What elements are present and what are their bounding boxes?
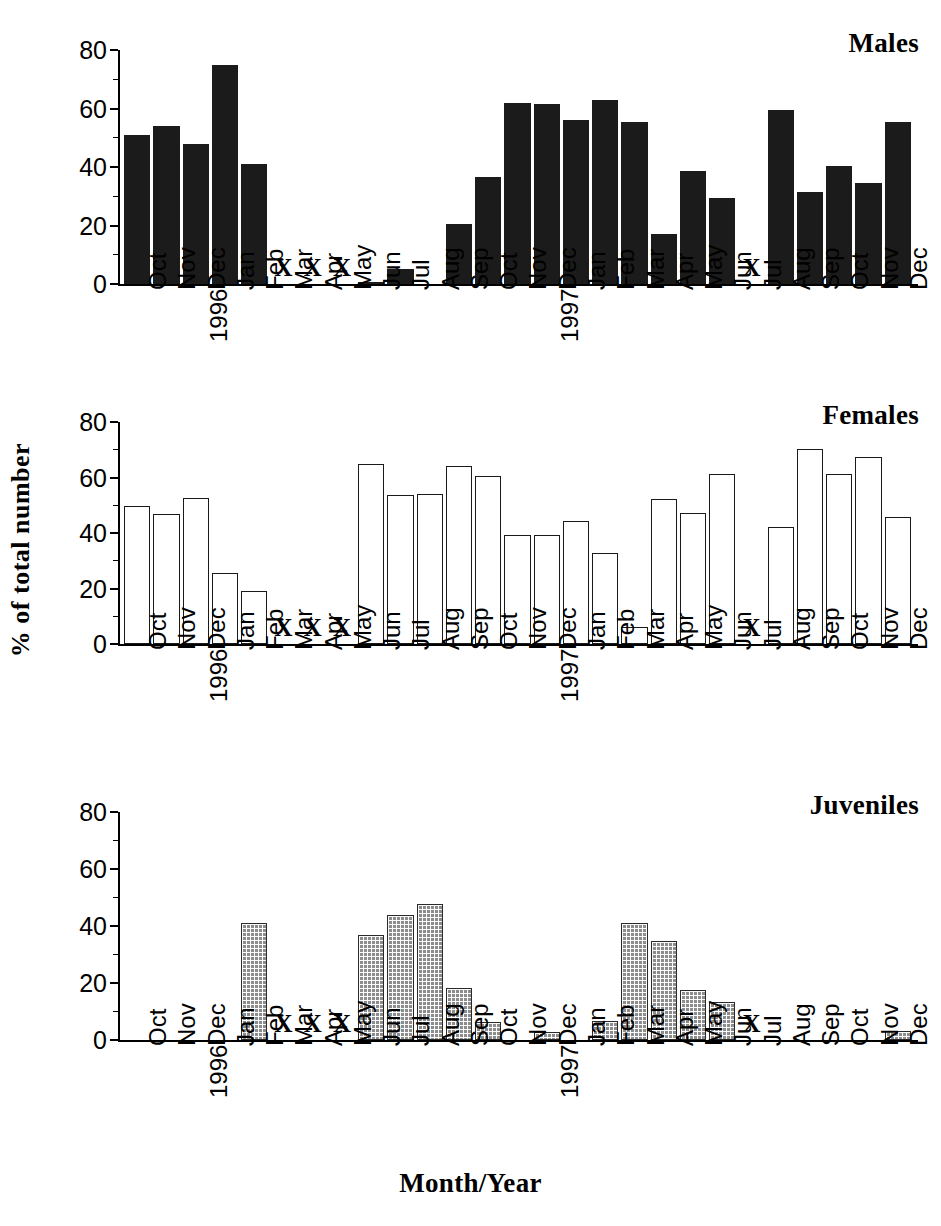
x-axis-ticks: OctNovDecJan1996FebMarAprMayJunJulAugSep… (120, 644, 916, 764)
x-tick: Mar (621, 284, 647, 404)
y-tick (110, 166, 118, 168)
y-tick-label: 80 (79, 410, 107, 435)
x-tick: Oct (124, 284, 150, 404)
x-tick: May (329, 284, 355, 404)
y-tick-minor (113, 505, 118, 506)
x-tick: Feb (241, 1040, 267, 1160)
y-tick-label: 40 (79, 521, 107, 546)
x-tick: Nov (504, 1040, 530, 1160)
x-tick: Jun (358, 644, 384, 764)
x-tick: Feb (592, 1040, 618, 1160)
x-tick: Sep (797, 1040, 823, 1160)
x-axis-ticks: OctNovDecJan1996FebMarAprMayJunJulAugSep… (120, 284, 916, 404)
y-tick (110, 1039, 118, 1041)
bar-slot (124, 812, 150, 1040)
x-tick: May (680, 284, 706, 404)
plot-area-males: 020406080XXXXOctNovDecJan1996FebMarAprMa… (118, 50, 918, 284)
x-tick: May (329, 1040, 355, 1160)
x-tick: Jan1996 (212, 284, 238, 404)
x-tick: Aug (768, 1040, 794, 1160)
x-tick: Sep (446, 1040, 472, 1160)
y-tick-label: 40 (79, 914, 107, 939)
y-tick-minor (113, 79, 118, 80)
y-tick (110, 811, 118, 813)
x-tick: Jun (709, 644, 735, 764)
bar-slot (387, 812, 413, 1040)
x-tick: May (680, 1040, 706, 1160)
x-tick: Nov (504, 644, 530, 764)
y-tick-minor (113, 254, 118, 255)
x-tick: Mar (621, 1040, 647, 1160)
x-tick: Sep (446, 644, 472, 764)
x-tick: Oct (826, 1040, 852, 1160)
x-tick: Jul (738, 644, 764, 764)
y-tick-label: 60 (79, 97, 107, 122)
x-tick: Oct (826, 644, 852, 764)
y-tick (110, 49, 118, 51)
x-axis-year-label: 1996 (207, 289, 231, 342)
y-tick-minor (113, 840, 118, 841)
y-tick (110, 925, 118, 927)
x-tick: Nov (153, 644, 179, 764)
y-tick (110, 982, 118, 984)
y-tick-label: 60 (79, 466, 107, 491)
x-tick: Jan1996 (212, 1040, 238, 1160)
x-tick-label: Dec (907, 1003, 931, 1046)
x-tick: Feb (241, 644, 267, 764)
x-tick: Nov (855, 644, 881, 764)
y-tick-label: 80 (79, 800, 107, 825)
x-tick: Oct (826, 284, 852, 404)
x-tick: Apr (651, 1040, 677, 1160)
x-tick: Apr (300, 1040, 326, 1160)
x-tick: Jan1996 (212, 644, 238, 764)
y-tick-label: 80 (79, 38, 107, 63)
x-tick-label: Dec (907, 247, 931, 290)
x-tick: Nov (855, 1040, 881, 1160)
x-tick: Nov (504, 284, 530, 404)
x-tick: Dec (885, 644, 911, 764)
y-tick-minor (113, 137, 118, 138)
y-tick-minor (113, 897, 118, 898)
y-tick-minor (113, 560, 118, 561)
y-tick-label: 20 (79, 971, 107, 996)
x-tick: Jul (738, 284, 764, 404)
x-tick: Apr (300, 644, 326, 764)
x-tick: Jun (358, 1040, 384, 1160)
y-tick-minor (113, 449, 118, 450)
y-tick (110, 643, 118, 645)
x-tick: Jan1997 (563, 644, 589, 764)
x-tick: Oct (475, 284, 501, 404)
y-tick-label: 40 (79, 155, 107, 180)
y-tick (110, 421, 118, 423)
x-tick: Dec (885, 1040, 911, 1160)
x-tick: Oct (475, 644, 501, 764)
y-axis-label: % of total number (6, 390, 46, 710)
y-tick-label: 0 (93, 632, 107, 657)
figure-bar-chart-panels: % of total number Month/Year Males 02040… (0, 0, 941, 1226)
x-tick: Jul (387, 284, 413, 404)
x-tick: Nov (153, 284, 179, 404)
x-axis-ticks: OctNovDecJan1996FebMarAprMayJunJulAugSep… (120, 1040, 916, 1160)
x-tick: Oct (124, 1040, 150, 1160)
y-tick (110, 588, 118, 590)
x-tick: Apr (651, 644, 677, 764)
x-tick: Feb (592, 284, 618, 404)
x-tick: Nov (153, 1040, 179, 1160)
bar-slot: X (738, 812, 764, 1040)
y-tick-minor (113, 954, 118, 955)
x-tick: Mar (270, 644, 296, 764)
bar-slot (124, 422, 150, 644)
bar-slot (387, 50, 413, 284)
x-tick: Mar (621, 644, 647, 764)
y-tick (110, 532, 118, 534)
y-tick-label: 20 (79, 214, 107, 239)
x-tick: Aug (417, 1040, 443, 1160)
x-tick: Aug (417, 284, 443, 404)
x-tick: Mar (270, 284, 296, 404)
x-tick: Mar (270, 1040, 296, 1160)
x-tick: Jun (358, 284, 384, 404)
y-tick-label: 20 (79, 577, 107, 602)
x-axis-year-label: 1997 (558, 1045, 582, 1098)
x-tick: Aug (768, 644, 794, 764)
x-tick: May (680, 644, 706, 764)
